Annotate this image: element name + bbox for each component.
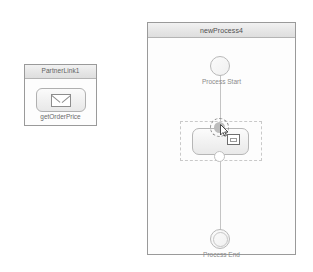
partner-link-panel-title: PartnerLink1 bbox=[41, 68, 79, 75]
partner-link-panel[interactable]: PartnerLink1 getOrderPrice bbox=[24, 64, 97, 126]
operation-node-get-order-price[interactable] bbox=[36, 88, 86, 112]
process-end-node[interactable] bbox=[210, 229, 230, 249]
connector-activity-to-end bbox=[220, 161, 221, 239]
partner-link-panel-header[interactable]: PartnerLink1 bbox=[25, 65, 96, 79]
process-panel[interactable]: newProcess4 Process Start Process End bbox=[147, 22, 296, 255]
process-start-label: Process Start bbox=[148, 79, 295, 86]
operation-label: getOrderPrice bbox=[25, 114, 96, 121]
activity-port-handle[interactable] bbox=[214, 151, 225, 162]
process-end-label: Process End bbox=[148, 252, 295, 259]
arrow-cursor-icon bbox=[220, 124, 229, 137]
envelope-icon bbox=[51, 94, 71, 107]
designer-canvas[interactable]: PartnerLink1 getOrderPrice newProcess4 P… bbox=[0, 0, 313, 272]
partner-link-panel-body: getOrderPrice bbox=[25, 79, 96, 125]
process-panel-title: newProcess4 bbox=[200, 27, 243, 34]
process-panel-header[interactable]: newProcess4 bbox=[148, 23, 295, 38]
process-panel-body[interactable]: Process Start Process End bbox=[148, 38, 295, 254]
process-start-node[interactable] bbox=[210, 56, 230, 76]
